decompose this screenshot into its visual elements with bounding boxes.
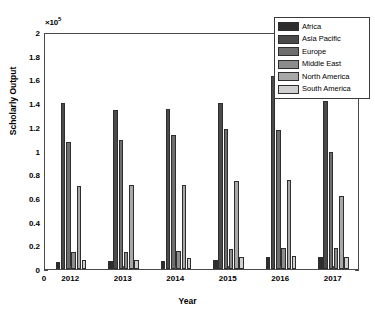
y-axis-tick-label: 1.4 bbox=[29, 100, 40, 109]
bar bbox=[182, 185, 187, 269]
legend-swatch-icon bbox=[278, 22, 299, 31]
legend-swatch-icon bbox=[278, 72, 299, 81]
x-axis-tick-label: 2015 bbox=[219, 274, 237, 283]
legend-item[interactable]: North America bbox=[277, 71, 367, 83]
y-axis-tick-label: 0.8 bbox=[29, 171, 40, 180]
bar bbox=[66, 142, 71, 269]
bar-group bbox=[56, 34, 88, 269]
y-axis-tick-label: 0.6 bbox=[29, 194, 40, 203]
x-axis-title: Year bbox=[0, 296, 375, 306]
legend-item-label: South America bbox=[302, 85, 351, 93]
bar bbox=[171, 135, 176, 269]
legend-item-label: North America bbox=[302, 73, 350, 81]
x-axis-origin-label: 0 bbox=[42, 274, 46, 283]
x-axis-tick-mark bbox=[175, 266, 176, 270]
legend-item-label: Middle East bbox=[302, 60, 341, 68]
bar bbox=[218, 103, 223, 269]
y-axis-tick-label: 1 bbox=[36, 147, 40, 156]
y-axis-tick-mark bbox=[44, 270, 48, 271]
chart-legend: AfricaAsia PacificEuropeMiddle EastNorth… bbox=[274, 17, 370, 99]
bar bbox=[323, 101, 328, 269]
legend-item-label: Europe bbox=[302, 48, 326, 56]
bar bbox=[119, 140, 124, 269]
y-axis-tick-label: 0.4 bbox=[29, 218, 40, 227]
legend-item[interactable]: Middle East bbox=[277, 58, 367, 70]
x-axis-tick-mark bbox=[333, 266, 334, 270]
exponent-prefix: ×10 bbox=[45, 18, 58, 27]
bar bbox=[339, 196, 344, 269]
x-axis-tick-label: 2014 bbox=[166, 274, 184, 283]
bar bbox=[329, 152, 334, 269]
figure-canvas: ×105 00.20.40.60.811.21.41.61.82 Scholar… bbox=[0, 0, 375, 329]
bar-group bbox=[108, 34, 140, 269]
x-axis-tick-mark bbox=[123, 266, 124, 270]
x-axis-tick-label: 2017 bbox=[324, 274, 342, 283]
y-axis-tick-label: 1.8 bbox=[29, 52, 40, 61]
legend-swatch-icon bbox=[278, 35, 299, 44]
bar bbox=[113, 110, 118, 269]
legend-item[interactable]: South America bbox=[277, 83, 367, 95]
legend-item[interactable]: Asia Pacific bbox=[277, 33, 367, 45]
bar bbox=[129, 185, 134, 269]
bar bbox=[287, 180, 292, 269]
bar bbox=[271, 76, 276, 269]
x-axis-tick-mark bbox=[228, 266, 229, 270]
bar-group bbox=[161, 34, 193, 269]
legend-item-label: Asia Pacific bbox=[302, 35, 341, 43]
bar-group bbox=[213, 34, 245, 269]
bar bbox=[224, 129, 229, 269]
legend-swatch-icon bbox=[278, 47, 299, 56]
legend-item-label: Africa bbox=[302, 23, 321, 31]
x-axis-tick-marks bbox=[44, 265, 359, 270]
y-axis-tick-label: 0.2 bbox=[29, 242, 40, 251]
bar bbox=[166, 109, 171, 269]
x-axis-tick-mark bbox=[70, 266, 71, 270]
y-axis-title: Scholarly Output bbox=[8, 36, 18, 166]
legend-item[interactable]: Europe bbox=[277, 46, 367, 58]
y-axis-tick-label: 2 bbox=[36, 29, 40, 38]
y-axis-tick-mark-right bbox=[355, 270, 359, 271]
x-axis-tick-mark bbox=[280, 266, 281, 270]
y-axis-tick-label: 1.6 bbox=[29, 76, 40, 85]
bar bbox=[61, 103, 66, 269]
bar bbox=[276, 130, 281, 269]
x-axis-tick-label: 2013 bbox=[114, 274, 132, 283]
x-axis-tick-labels: 201220132014201520162017 bbox=[0, 274, 375, 288]
x-axis-tick-label: 2012 bbox=[61, 274, 79, 283]
exponent-power: 5 bbox=[58, 16, 61, 22]
y-axis-exponent-label: ×105 bbox=[45, 16, 61, 27]
y-axis-tick-label: 1.2 bbox=[29, 123, 40, 132]
legend-swatch-icon bbox=[278, 60, 299, 69]
x-axis-tick-label: 2016 bbox=[271, 274, 289, 283]
legend-swatch-icon bbox=[278, 85, 299, 94]
legend-item[interactable]: Africa bbox=[277, 21, 367, 33]
bar bbox=[234, 181, 239, 269]
bar bbox=[77, 186, 82, 269]
